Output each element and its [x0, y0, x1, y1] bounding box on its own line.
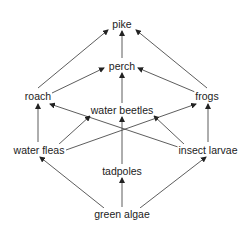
node-water-fleas: water fleas [13, 144, 66, 156]
node-pike: pike [111, 18, 132, 30]
node-insect-larvae: insect larvae [178, 144, 239, 156]
edge-roach-to-perch [52, 68, 104, 93]
food-web-diagram: pike perch roach frogs water beetles wat… [0, 0, 248, 233]
edge-green-algae-to-insect-larvae [140, 157, 206, 208]
food-web-edges [0, 0, 248, 233]
node-roach: roach [24, 90, 52, 102]
node-water-beetles: water beetles [90, 104, 154, 116]
node-green-algae: green algae [93, 208, 150, 220]
node-tadpoles: tadpoles [101, 165, 143, 177]
node-frogs: frogs [194, 90, 219, 102]
node-perch: perch [108, 60, 136, 72]
edge-roach-to-pike [38, 30, 108, 88]
edge-frogs-to-pike [136, 30, 207, 88]
edge-green-algae-to-water-fleas [40, 157, 104, 208]
edge-water-fleas-to-water-beetles [58, 116, 90, 145]
